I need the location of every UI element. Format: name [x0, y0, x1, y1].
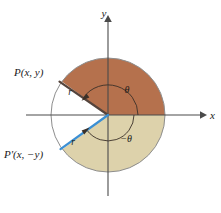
point-p-prime-label: P'(x, −y): [3, 148, 43, 161]
y-axis-label: y: [101, 7, 107, 19]
angle-theta-label: θ: [125, 84, 130, 95]
radius-upper-label: r: [68, 87, 72, 97]
unit-circle-figure: y x P(x, y) P'(x, −y) r r θ −θ: [0, 0, 221, 213]
figure-canvas: y x P(x, y) P'(x, −y) r r θ −θ: [0, 0, 221, 213]
point-p-label: P(x, y): [13, 66, 44, 79]
radius-lower-label: r: [71, 137, 75, 147]
angle-negative-theta-label: −θ: [120, 133, 132, 144]
x-axis-label: x: [209, 109, 215, 121]
